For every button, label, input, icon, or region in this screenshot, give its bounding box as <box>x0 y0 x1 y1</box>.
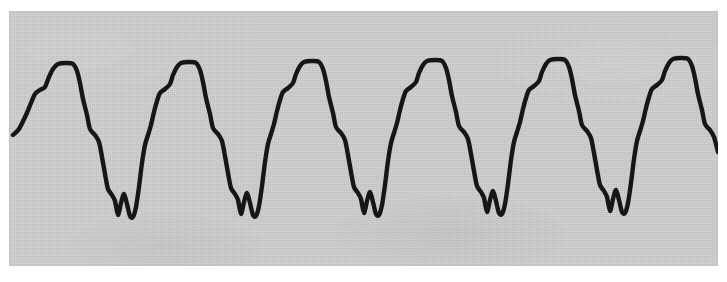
chart-panel <box>9 11 718 266</box>
waveform-path <box>13 58 718 218</box>
waveform-trace <box>9 11 718 266</box>
waveform-figure <box>0 0 727 282</box>
